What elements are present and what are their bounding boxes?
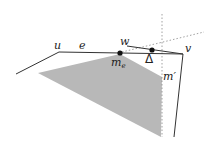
right-edge [174, 54, 183, 137]
label-e: e [79, 39, 86, 52]
label-w: w [120, 35, 130, 48]
label-m-e-sub: e [121, 62, 125, 70]
diagram-canvas: u e w v me m′ Δ [0, 0, 215, 146]
label-v: v [185, 42, 192, 55]
label-m-e-base: m [111, 56, 121, 69]
dashed-diagonal-line [122, 32, 204, 52]
label-u: u [54, 39, 61, 52]
label-delta: Δ [145, 52, 154, 66]
point-m-e [117, 50, 122, 55]
shaded-region [38, 54, 162, 137]
label-m-prime: m′ [163, 70, 176, 83]
